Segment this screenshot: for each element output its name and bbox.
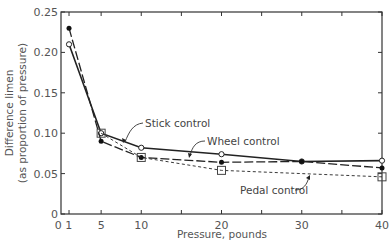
y-tick-label: 0.15 [34,87,59,100]
x-tick-label: 40 [375,219,389,232]
open-circle-marker [379,158,384,163]
open-circle-marker [219,152,224,157]
x-tick-label: 5 [98,219,105,232]
filled-circle-marker [99,139,104,144]
plot-frame [61,12,382,214]
x-tick-label: 0 1 [55,219,73,232]
open-circle-marker [139,145,144,150]
x-axis-title: Pressure, pounds [177,228,267,240]
filled-circle-marker [380,165,385,170]
filled-circle-marker [299,159,304,164]
y-tick-label: 0.10 [34,127,59,140]
stick-arrow [125,123,143,142]
filled-circle-marker [219,160,224,165]
annotations: Stick controlWheel controlPedal control [122,117,310,196]
wheel-arrow [190,141,205,156]
y-axis-title-line2: (as proportion of pressure) [16,43,28,183]
filled-circle-marker [67,26,72,31]
y-tick-label: 0.05 [34,168,59,181]
open-circle-marker [66,42,71,47]
y-tick-label: 0.20 [34,46,59,59]
x-tick-label: 10 [134,219,148,232]
y-axis-title-line1: Difference limen [3,70,15,157]
annotation-wheel-control: Wheel control [207,135,280,147]
line-chart: 00.050.100.150.200.250 1510203040Pressur… [0,0,392,242]
y-tick-label: 0.25 [34,6,59,19]
annotation-stick-control: Stick control [145,117,210,129]
arrowhead-icon [188,153,192,158]
x-tick-label: 30 [295,219,309,232]
series-group [66,26,386,181]
